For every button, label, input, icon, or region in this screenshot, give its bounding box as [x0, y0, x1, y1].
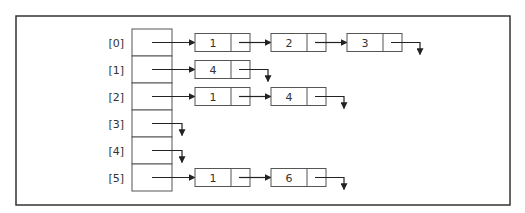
array-slot-4: [4] — [108, 137, 182, 164]
array-slot-1: [1]4 — [108, 56, 268, 83]
array-slot-0: [0]123 — [108, 29, 420, 56]
node-value: 1 — [210, 172, 217, 185]
node-value: 4 — [210, 64, 217, 77]
list-node: 1 — [195, 88, 271, 106]
list-node: 4 — [271, 88, 344, 109]
array-slot-2: [2]14 — [108, 83, 344, 110]
node-value: 6 — [286, 172, 293, 185]
array-slot-5: [5]16 — [108, 164, 344, 191]
node-value: 1 — [210, 91, 217, 104]
node-value: 4 — [286, 91, 293, 104]
list-node: 6 — [271, 169, 344, 190]
list-node: 1 — [195, 34, 271, 52]
list-node: 2 — [271, 34, 347, 52]
array-index-label: [3] — [108, 118, 124, 131]
node-value: 2 — [286, 37, 293, 50]
array-index-label: [5] — [108, 172, 124, 185]
diagram-frame — [16, 16, 510, 205]
array-index-label: [2] — [108, 91, 124, 104]
array-index-label: [0] — [108, 37, 124, 50]
array-index-label: [4] — [108, 145, 124, 158]
adjacency-list-diagram: [0]123[1]4[2]14[3][4][5]16 — [0, 0, 525, 213]
node-value: 1 — [210, 37, 217, 50]
list-node: 3 — [347, 34, 420, 55]
list-node: 4 — [195, 61, 268, 82]
list-node: 1 — [195, 169, 271, 187]
node-value: 3 — [362, 37, 369, 50]
array-slot-3: [3] — [108, 110, 182, 137]
array-index-label: [1] — [108, 64, 124, 77]
